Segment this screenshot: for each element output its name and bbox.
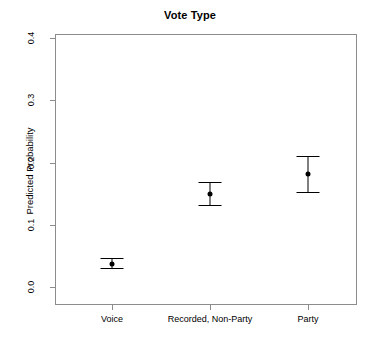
data-point	[110, 261, 115, 266]
error-bar-cap-lower	[101, 268, 124, 269]
error-bar-cap-upper	[101, 258, 124, 259]
plot-frame	[55, 34, 357, 305]
vote-type-chart: Vote Type Predicted Probability 0.00.10.…	[0, 0, 380, 342]
x-tick-mark	[210, 305, 211, 310]
y-tick-label: 0.0	[25, 270, 37, 304]
error-bar-cap-upper	[297, 156, 320, 157]
y-tick-label: 0.2	[25, 146, 37, 180]
x-tick-label: Party	[297, 313, 318, 326]
data-point	[208, 192, 213, 197]
error-bar-cap-lower	[297, 192, 320, 193]
x-tick-mark	[308, 305, 309, 310]
error-bar-cap-upper	[199, 182, 222, 183]
x-tick-mark	[112, 305, 113, 310]
y-tick-label: 0.4	[25, 21, 37, 55]
data-point	[306, 172, 311, 177]
error-bar-cap-lower	[199, 205, 222, 206]
chart-title: Vote Type	[0, 9, 380, 21]
y-tick-label: 0.1	[25, 208, 37, 242]
x-tick-label: Voice	[101, 313, 123, 326]
y-tick-label: 0.3	[25, 83, 37, 117]
x-tick-label: Recorded, Non-Party	[168, 313, 253, 326]
